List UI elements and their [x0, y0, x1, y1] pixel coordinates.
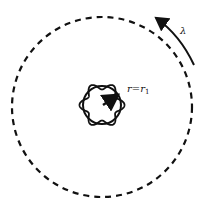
wavy-boundary: [80, 85, 125, 125]
radius-arrow-icon: [103, 95, 118, 105]
diagram-canvas: r=r1 λ: [0, 0, 203, 203]
wavelength-arrow-icon: [156, 18, 194, 65]
wavelength-label: λ: [179, 25, 186, 36]
radius-label: r=r1: [127, 83, 149, 96]
diagram-svg: r=r1 λ: [0, 0, 203, 203]
outer-dashed-circle: [12, 17, 192, 197]
